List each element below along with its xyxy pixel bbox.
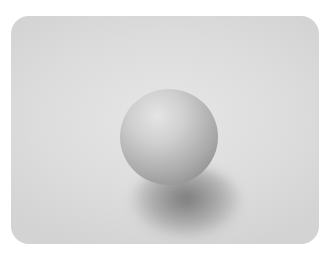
sphere — [120, 89, 218, 185]
photo-surface — [11, 16, 319, 244]
